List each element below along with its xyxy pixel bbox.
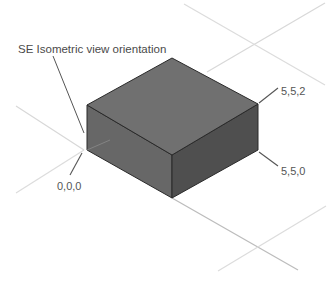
leader-552 [259,88,278,103]
leader-title [53,56,84,133]
grid-line-top-cross-b [184,4,325,85]
solid-box [87,58,258,198]
grid-line-left-upper [16,106,84,150]
corner-label-5-5-2: 5,5,2 [281,86,305,97]
grid-line-bottom-cross [218,206,326,271]
leader-000 [70,153,82,175]
grid-line-top-cross-a [207,3,325,72]
origin-label: 0,0,0 [57,181,81,192]
leader-550 [259,152,278,166]
view-orientation-label: SE Isometric view orientation [18,44,166,56]
corner-label-5-5-0: 5,5,0 [281,166,305,177]
